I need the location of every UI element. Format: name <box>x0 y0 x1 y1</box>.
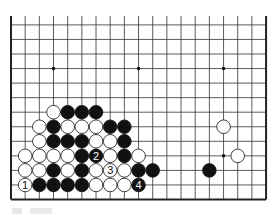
black-stone <box>75 149 89 163</box>
star-point-icon <box>137 67 141 71</box>
white-stone-icon <box>118 178 132 192</box>
white-stone <box>217 120 231 134</box>
black-stone-icon <box>75 105 89 119</box>
white-stone <box>103 178 117 192</box>
black-stone-icon <box>75 149 89 163</box>
black-stone <box>118 120 132 134</box>
white-stone-icon <box>89 135 103 149</box>
black-stone: 2 <box>89 149 103 163</box>
white-stone <box>103 135 117 149</box>
white-stone: 3 <box>103 164 117 178</box>
white-stone <box>89 135 103 149</box>
white-stone <box>89 120 103 134</box>
white-stone-icon <box>217 120 231 134</box>
black-stone-icon <box>47 164 61 178</box>
black-stone <box>146 164 160 178</box>
caption-clipped <box>12 208 52 214</box>
white-stone <box>103 149 117 163</box>
white-stone <box>61 164 75 178</box>
white-stone-icon <box>103 178 117 192</box>
white-stone <box>33 120 47 134</box>
white-stone-icon <box>18 164 32 178</box>
black-stone <box>118 135 132 149</box>
black-stone-icon <box>103 120 117 134</box>
black-stone-icon <box>132 164 146 178</box>
white-stone <box>33 149 47 163</box>
black-stone-icon <box>47 135 61 149</box>
black-stone <box>33 178 47 192</box>
white-stone <box>61 149 75 163</box>
black-stone-icon <box>61 178 75 192</box>
white-stone <box>18 149 32 163</box>
black-stone-icon <box>146 164 160 178</box>
black-stone <box>47 164 61 178</box>
move-number-label: 1 <box>22 179 28 191</box>
white-stone <box>75 120 89 134</box>
go-board: 2314 <box>0 0 279 215</box>
white-stone-icon <box>89 178 103 192</box>
black-stone <box>61 178 75 192</box>
black-stone <box>118 149 132 163</box>
black-stone-icon <box>75 135 89 149</box>
black-stone <box>103 120 117 134</box>
white-stone <box>231 149 245 163</box>
black-stone <box>75 164 89 178</box>
white-stone <box>61 120 75 134</box>
white-stone <box>33 164 47 178</box>
black-stone-icon <box>89 105 103 119</box>
black-stone <box>75 178 89 192</box>
white-stone-icon <box>33 164 47 178</box>
move-number-label: 3 <box>107 164 113 176</box>
white-stone-icon <box>231 149 245 163</box>
black-stone-icon <box>47 178 61 192</box>
white-stone <box>47 149 61 163</box>
black-stone-icon <box>61 135 75 149</box>
black-stone <box>89 105 103 119</box>
black-stone <box>75 105 89 119</box>
black-stone-icon <box>33 178 47 192</box>
black-stone <box>203 164 217 178</box>
white-stone-icon <box>33 149 47 163</box>
star-point-icon <box>222 154 226 158</box>
black-stone-icon <box>118 120 132 134</box>
star-point-icon <box>52 67 56 71</box>
black-stone-icon <box>61 105 75 119</box>
move-number-label: 2 <box>93 150 99 162</box>
white-stone <box>132 149 146 163</box>
stones-layer: 2314 <box>18 105 244 191</box>
black-stone <box>47 135 61 149</box>
white-stone-icon <box>61 164 75 178</box>
white-stone-icon <box>61 120 75 134</box>
black-stone <box>47 178 61 192</box>
black-stone-icon <box>47 120 61 134</box>
white-stone-icon <box>103 135 117 149</box>
white-stone-icon <box>18 149 32 163</box>
white-stone <box>89 164 103 178</box>
white-stone <box>118 164 132 178</box>
black-stone <box>47 120 61 134</box>
black-stone-icon <box>118 135 132 149</box>
move-number-label: 4 <box>135 179 141 191</box>
white-stone-icon <box>47 105 61 119</box>
black-stone <box>61 135 75 149</box>
white-stone <box>47 105 61 119</box>
white-stone <box>18 164 32 178</box>
star-point-icon <box>222 67 226 71</box>
white-stone <box>33 135 47 149</box>
white-stone-icon <box>103 149 117 163</box>
white-stone-icon <box>132 149 146 163</box>
black-stone <box>132 164 146 178</box>
black-stone <box>61 105 75 119</box>
white-stone-icon <box>61 149 75 163</box>
white-stone-icon <box>33 120 47 134</box>
white-stone-icon <box>75 120 89 134</box>
white-stone-icon <box>89 120 103 134</box>
black-stone-icon <box>75 178 89 192</box>
black-stone <box>75 135 89 149</box>
black-stone: 4 <box>132 178 146 192</box>
white-stone <box>89 178 103 192</box>
black-stone-icon <box>118 149 132 163</box>
white-stone: 1 <box>18 178 32 192</box>
white-stone-icon <box>47 149 61 163</box>
white-stone <box>118 178 132 192</box>
